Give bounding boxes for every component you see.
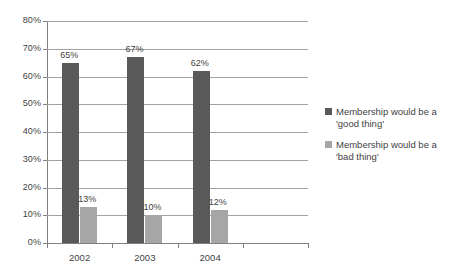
- gridline: [47, 21, 308, 22]
- gridline: [47, 132, 308, 133]
- y-axis-tick-label: 50%: [3, 99, 41, 108]
- gridline: [47, 188, 308, 189]
- gridline: [47, 160, 308, 161]
- plot-area: [47, 21, 308, 243]
- bar-value-label: 65%: [60, 51, 78, 60]
- x-axis-tick-mark: [178, 243, 179, 248]
- y-axis-tick-label: 20%: [3, 183, 41, 192]
- legend-swatch-icon: [325, 108, 332, 115]
- x-axis-tick-mark: [243, 243, 244, 248]
- bar-value-label: 12%: [209, 198, 227, 207]
- bar: [127, 57, 144, 243]
- legend-item[interactable]: Membership would be a 'good thing': [325, 106, 459, 130]
- x-axis-tick-mark: [47, 243, 48, 248]
- x-axis-tick-mark: [112, 243, 113, 248]
- x-axis-tick-mark: [308, 243, 309, 248]
- x-axis-category-label: 2003: [112, 252, 177, 263]
- y-axis-tick-label: 30%: [3, 155, 41, 164]
- gridline: [47, 49, 308, 50]
- legend-item-label: Membership would be a 'bad thing': [336, 139, 454, 163]
- y-axis-tick-label: 0%: [3, 238, 41, 247]
- y-axis-tick-label: 60%: [3, 72, 41, 81]
- bar-value-label: 62%: [191, 59, 209, 68]
- bar: [80, 207, 97, 243]
- y-axis-tick-label: 80%: [3, 16, 41, 25]
- bar-chart: 0%10%20%30%40%50%60%70%80% 65%13%67%10%6…: [0, 0, 461, 274]
- y-axis-labels: 0%10%20%30%40%50%60%70%80%: [0, 0, 41, 274]
- y-axis-tick-label: 70%: [3, 44, 41, 53]
- bar: [193, 71, 210, 243]
- bar: [145, 215, 162, 243]
- x-axis-category-label: 2002: [47, 252, 112, 263]
- bar-value-label: 13%: [78, 195, 96, 204]
- bar-value-label: 67%: [125, 45, 143, 54]
- bar-value-label: 10%: [143, 203, 161, 212]
- legend-item[interactable]: Membership would be a 'bad thing': [325, 139, 459, 163]
- y-axis-tick-label: 10%: [3, 210, 41, 219]
- x-axis-category-label: 2004: [178, 252, 243, 263]
- legend-item-label: Membership would be a 'good thing': [336, 106, 454, 130]
- y-axis-tick-label: 40%: [3, 127, 41, 136]
- bar: [62, 63, 79, 243]
- legend-swatch-icon: [325, 141, 332, 148]
- chart-legend: Membership would be a 'good thing'Member…: [325, 106, 459, 172]
- gridline: [47, 77, 308, 78]
- gridline: [47, 104, 308, 105]
- bar: [211, 210, 228, 243]
